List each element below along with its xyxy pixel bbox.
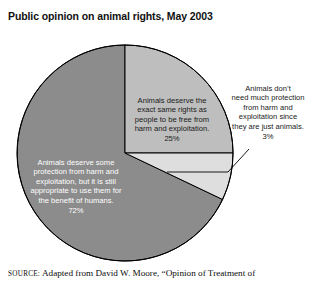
slice-label-72-text: Animals deserve some protection from har… [30,158,121,205]
chart-title: Public opinion on animal rights, May 200… [8,10,213,22]
source-note: SOURCE: Adapted from David W. Moore, “Op… [8,268,324,280]
slice-label-3-percent: 3% [212,132,324,142]
slice-label-72: Animals deserve some protection from har… [18,148,134,225]
slice-label-3: Animals don’t need much protection from … [212,74,324,151]
slice-label-25: Animals deserve the exact same rights as… [120,86,224,153]
slice-label-3-text: Animals don’t need much protection from … [231,84,304,131]
source-kicker: SOURCE: [8,270,40,278]
source-text: Adapted from David W. Moore, “Opinion of… [40,268,255,278]
pie-chart-figure: Public opinion on animal rights, May 200… [0,0,327,288]
slice-label-72-percent: 72% [18,206,134,216]
slice-label-25-text: Animals deserve the exact same rights as… [135,96,210,134]
slice-label-25-percent: 25% [120,134,224,144]
